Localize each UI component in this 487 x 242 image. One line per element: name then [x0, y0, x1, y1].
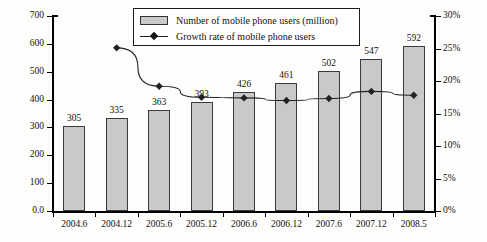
- y-axis-right-tick-label: 10%: [443, 140, 477, 150]
- y-axis-left-tick: [47, 44, 52, 45]
- y-axis-right-tick: [436, 211, 441, 212]
- y-axis-left-tick-label: 300: [14, 121, 44, 131]
- chart-legend: Number of mobile phone users (million) G…: [133, 8, 360, 46]
- y-axis-right-tick-label: 0%: [443, 205, 477, 215]
- bar-value-label: 393: [182, 89, 222, 99]
- bar-value-label: 502: [309, 58, 349, 68]
- y-axis-right-tick-label: 30%: [443, 10, 477, 20]
- x-axis-tick: [53, 213, 54, 217]
- y-axis-right-tick: [436, 81, 441, 82]
- y-axis-left-tick-label: 0.0: [14, 205, 44, 215]
- bar: [318, 71, 340, 211]
- bar: [403, 46, 425, 211]
- line-diamond-icon: [140, 32, 168, 41]
- x-axis-tick: [393, 213, 394, 217]
- x-axis-label: 2008.5: [388, 219, 440, 229]
- x-axis-tick: [180, 213, 181, 217]
- y-axis-right-tick-label: 5%: [443, 173, 477, 183]
- chart-container: Million 0.0100200300400500600700 0%5%10%…: [0, 0, 487, 242]
- bar-value-label: 461: [266, 70, 306, 80]
- x-axis-tick: [308, 213, 309, 217]
- bar-value-label: 363: [139, 97, 179, 107]
- bar: [233, 92, 255, 211]
- bar-value-label: 335: [97, 105, 137, 115]
- line-marker-diamond: [155, 83, 162, 90]
- legend-label-line: Growth rate of mobile phone users: [176, 31, 315, 42]
- bar-value-label: 547: [351, 46, 391, 56]
- bar: [360, 59, 382, 211]
- y-axis-right-tick: [436, 179, 441, 180]
- legend-label-bar: Number of mobile phone users (million): [176, 15, 338, 26]
- legend-item-bar: Number of mobile phone users (million): [140, 12, 355, 28]
- legend-item-line: Growth rate of mobile phone users: [140, 28, 355, 44]
- bar: [63, 126, 85, 211]
- x-axis-tick: [223, 213, 224, 217]
- bar-value-label: 592: [394, 33, 434, 43]
- y-axis-left-tick: [47, 127, 52, 128]
- line-marker-diamond: [113, 44, 120, 51]
- y-axis-left-tick-label: 700: [14, 10, 44, 20]
- bar-swatch-icon: [140, 16, 168, 25]
- y-axis-right-tick-label: 15%: [443, 108, 477, 118]
- y-axis-left-tick: [47, 16, 52, 17]
- x-axis-tick: [265, 213, 266, 217]
- bar: [191, 102, 213, 211]
- y-axis-right-tick: [436, 114, 441, 115]
- y-axis-left-tick: [47, 72, 52, 73]
- y-axis-right-tick: [436, 146, 441, 147]
- y-axis-left-tick-label: 400: [14, 94, 44, 104]
- y-axis-left-tick: [47, 183, 52, 184]
- y-axis-left-tick: [47, 211, 52, 212]
- bar-value-label: 426: [224, 79, 264, 89]
- y-axis-right-tick-label: 25%: [443, 43, 477, 53]
- y-axis-right-tick: [436, 16, 441, 17]
- y-axis-left-tick-label: 600: [14, 38, 44, 48]
- bar: [275, 83, 297, 211]
- bar: [106, 118, 128, 211]
- bar: [148, 110, 170, 211]
- x-axis-tick: [350, 213, 351, 217]
- x-axis-tick: [138, 213, 139, 217]
- y-axis-left-tick: [47, 100, 52, 101]
- y-axis-left-tick: [47, 155, 52, 156]
- y-axis-left-tick-label: 200: [14, 149, 44, 159]
- x-axis-tick: [95, 213, 96, 217]
- y-axis-left-tick-label: 100: [14, 177, 44, 187]
- y-axis-left-cap: [52, 15, 58, 17]
- y-axis-left-tick-label: 500: [14, 66, 44, 76]
- bar-value-label: 305: [54, 113, 94, 123]
- y-axis-right-tick-label: 20%: [443, 75, 477, 85]
- y-axis-right-tick: [436, 49, 441, 50]
- x-axis-line: [52, 211, 436, 213]
- x-axis-tick: [435, 213, 436, 217]
